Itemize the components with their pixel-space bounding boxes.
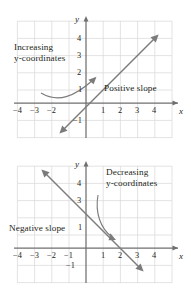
negative-slope-panel: Decreasing y-coordinates Negative slope … <box>0 146 191 291</box>
x-tick-2: 2 <box>118 251 122 260</box>
y-tick-3: 3 <box>77 51 81 60</box>
slope-figure: Increasing y-coordinates Positive slope … <box>0 0 191 291</box>
decreasing-label-line2: y-coordinates <box>106 178 157 189</box>
y-tick-1: 1 <box>78 85 82 94</box>
x-tick-4: 4 <box>152 251 156 260</box>
x-axis-name: x <box>179 251 183 261</box>
x-tick-neg3: −3 <box>30 251 39 260</box>
y-axis-name: y <box>75 159 79 169</box>
positive-slope-label: Positive slope <box>104 83 157 94</box>
increasing-label-line2: y-coordinates <box>14 53 65 64</box>
x-axis-name: x <box>179 106 183 116</box>
positive-slope-panel: Increasing y-coordinates Positive slope … <box>0 0 191 145</box>
x-tick-neg4: −4 <box>13 251 22 260</box>
x-tick-neg2: −2 <box>47 251 56 260</box>
y-tick-4: 4 <box>77 179 81 188</box>
x-tick-neg4: −4 <box>13 106 22 115</box>
x-tick-neg3: −3 <box>30 106 39 115</box>
x-axis <box>14 101 178 106</box>
decreasing-arrow <box>97 195 112 237</box>
x-tick-3: 3 <box>135 251 139 260</box>
y-tick-4: 4 <box>77 34 81 43</box>
y-axis-name: y <box>75 14 79 24</box>
x-tick-1: 1 <box>101 251 105 260</box>
y-tick-1: 1 <box>78 223 82 232</box>
y-tick-neg1: −1 <box>73 116 82 125</box>
x-tick-1: 1 <box>101 106 105 115</box>
decreasing-arrow-head <box>109 233 116 240</box>
x-tick-neg1: −1 <box>64 251 73 260</box>
y-tick-2: 2 <box>77 68 81 77</box>
y-tick-neg1: −1 <box>66 261 75 270</box>
negative-slope-label: Negative slope <box>9 223 65 234</box>
x-tick-neg2: −2 <box>47 106 56 115</box>
x-axis <box>14 246 178 251</box>
x-tick-3: 3 <box>135 106 139 115</box>
y-tick-3: 3 <box>77 196 81 205</box>
x-tick-2: 2 <box>118 106 122 115</box>
increasing-label-line1: Increasing <box>14 42 53 53</box>
decreasing-label-line1: Decreasing <box>106 167 148 178</box>
x-tick-4: 4 <box>152 106 156 115</box>
increasing-arrow <box>41 80 93 98</box>
negative-slope-plot <box>0 146 191 291</box>
y-axis <box>84 161 89 283</box>
positive-slope-plot <box>0 0 191 145</box>
y-axis <box>84 16 89 138</box>
